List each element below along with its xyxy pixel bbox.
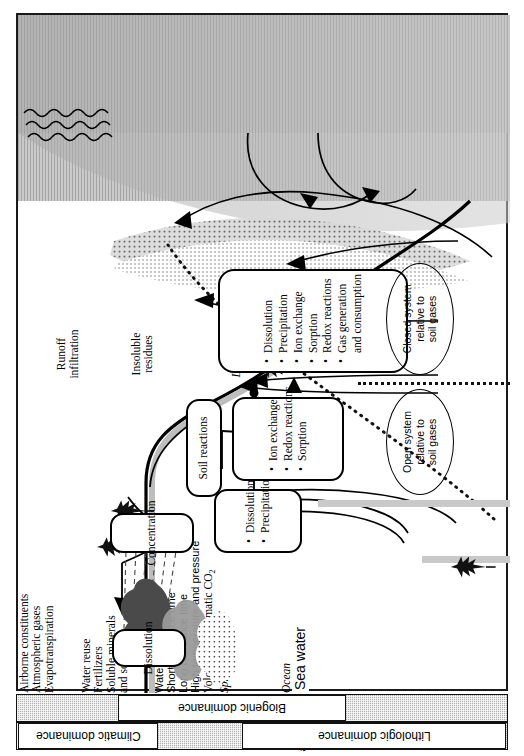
dominance-label-text: Climatic dominance — [36, 729, 141, 743]
process-item: Ion exchange — [266, 387, 281, 471]
process-item: Dissolution — [243, 474, 258, 543]
process-item: Precipitation — [258, 474, 273, 543]
process-box-ion-exchange-redox-sorption[interactable]: Ion exchange Redox reactions Sorption — [232, 397, 344, 481]
dominance-label-text: Biogenic dominance — [178, 701, 286, 715]
soil-band-2 — [318, 500, 510, 507]
system-ellipse-open-system[interactable]: Open system relative to soil gases — [386, 389, 454, 495]
process-box-concentration[interactable]: Concentration — [110, 513, 194, 553]
dominance-label-climatic: Climatic dominance — [18, 723, 158, 749]
process-item: Redox reactions — [320, 274, 335, 363]
process-box-dissolution-precipitation[interactable]: Dissolution Precipitation — [214, 489, 302, 553]
process-item: Ion exchange — [291, 274, 306, 363]
figure-frame: Dissolution Concentration Soil reactions… — [16, 13, 508, 691]
dominance-label-lithologic: Lithologic dominance — [242, 723, 506, 749]
figure-canvas: Dissolution Concentration Soil reactions… — [0, 0, 524, 756]
process-item: Dissolution — [261, 274, 276, 363]
process-item: Sorption — [306, 274, 321, 363]
process-box-soil-reactions[interactable]: Soil reactions — [186, 399, 222, 497]
sea-water-body — [18, 15, 510, 231]
process-box-dissolution-atmosphere[interactable]: Dissolution — [112, 629, 186, 667]
process-item: Redox reactions — [281, 387, 296, 471]
process-item: Gas generation and consumption — [335, 274, 365, 363]
process-box-title: Dissolution — [142, 621, 155, 674]
rotated-diagram: Dissolution Concentration Soil reactions… — [18, 15, 510, 693]
process-item: Sorption — [295, 387, 310, 471]
process-box-items: Ion exchange Redox reactions Sorption — [266, 387, 311, 471]
system-ellipse-closed-system[interactable]: Closed system relative to soil gases — [386, 263, 454, 375]
process-item: Precipitation — [276, 274, 291, 363]
system-divider — [358, 382, 510, 385]
process-box-title: Concentration — [145, 500, 158, 565]
process-box-deep-reactions[interactable]: Dissolution Precipitation Ion exchange S… — [218, 269, 408, 373]
dominance-label-text: Lithologic dominance — [318, 729, 431, 743]
dominance-label-biogenic: Biogenic dominance — [118, 695, 346, 721]
system-ellipse-label: Open system relative to soil gases — [401, 411, 439, 473]
process-box-items: Dissolution Precipitation Ion exchange S… — [261, 274, 366, 363]
process-box-items: Dissolution Precipitation — [243, 474, 273, 543]
system-ellipse-label: Closed system relative to soil gases — [401, 285, 439, 354]
process-box-title: Soil reactions — [197, 417, 210, 480]
